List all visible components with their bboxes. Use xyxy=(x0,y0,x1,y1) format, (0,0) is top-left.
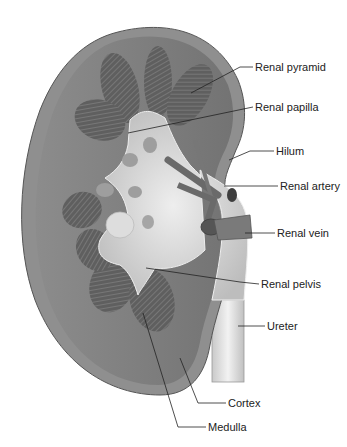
label-renal-pelvis: Renal pelvis xyxy=(261,278,321,290)
label-renal-vein: Renal vein xyxy=(277,227,329,239)
label-renal-pyramid: Renal pyramid xyxy=(255,61,326,73)
label-hilum: Hilum xyxy=(276,145,304,157)
label-ureter: Ureter xyxy=(267,320,298,332)
kidney-diagram: Renal pyramid Renal papilla Hilum Renal … xyxy=(0,0,347,447)
label-renal-artery: Renal artery xyxy=(280,180,340,192)
label-renal-papilla: Renal papilla xyxy=(255,101,319,113)
label-medulla: Medulla xyxy=(208,421,247,433)
label-cortex: Cortex xyxy=(228,397,261,409)
